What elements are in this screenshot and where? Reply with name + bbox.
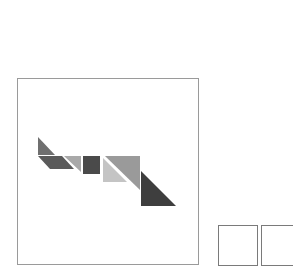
piece-slot-2[interactable] xyxy=(261,225,293,266)
square-piece[interactable] xyxy=(83,156,100,174)
piece-slot-1[interactable] xyxy=(218,225,258,266)
